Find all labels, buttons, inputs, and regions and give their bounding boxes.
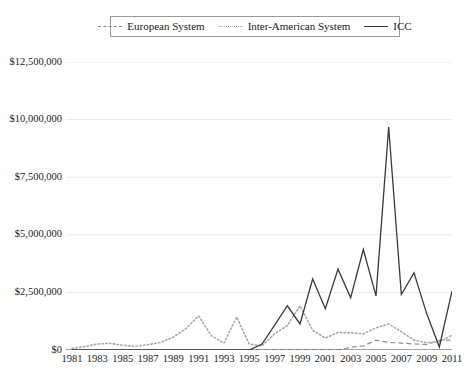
x-tick-label: 1991 bbox=[188, 353, 209, 364]
dashed-line-icon bbox=[98, 26, 122, 27]
legend-item-icc: ICC bbox=[364, 21, 411, 32]
x-axis: 1981198319851987198919911993199519971999… bbox=[0, 353, 466, 369]
x-tick-label: 2011 bbox=[442, 353, 463, 364]
x-tick-label: 1993 bbox=[214, 353, 235, 364]
x-tick-label: 1997 bbox=[264, 353, 285, 364]
x-tick-label: 1995 bbox=[239, 353, 260, 364]
x-tick-label: 2009 bbox=[416, 353, 437, 364]
y-axis: $0$2,500,000$5,000,000$7,500,000$10,000,… bbox=[0, 0, 62, 378]
x-tick-label: 1981 bbox=[62, 353, 83, 364]
x-tick-label: 1985 bbox=[112, 353, 133, 364]
x-tick-label: 1989 bbox=[163, 353, 184, 364]
plot-svg bbox=[66, 62, 452, 350]
plot-area bbox=[66, 62, 452, 350]
series-line-icc bbox=[72, 127, 452, 350]
series-layer bbox=[72, 127, 452, 350]
x-tick-label: 2007 bbox=[391, 353, 412, 364]
x-tick-label: 1983 bbox=[87, 353, 108, 364]
x-tick-label: 1987 bbox=[138, 353, 159, 364]
y-tick-label: $7,500,000 bbox=[15, 172, 62, 183]
solid-line-icon bbox=[364, 26, 388, 27]
y-tick-label: $12,500,000 bbox=[10, 57, 63, 68]
dotted-line-icon bbox=[219, 26, 243, 27]
legend-label-icc: ICC bbox=[393, 21, 411, 32]
y-tick-label: $10,000,000 bbox=[10, 114, 63, 125]
y-tick-label: $5,000,000 bbox=[15, 229, 62, 240]
x-tick-label: 2001 bbox=[315, 353, 336, 364]
gridlines bbox=[66, 62, 452, 292]
legend-label-european-system: European System bbox=[127, 21, 204, 32]
y-tick-label: $2,500,000 bbox=[15, 287, 62, 298]
line-chart: European System Inter-American System IC… bbox=[0, 0, 466, 378]
legend-item-inter-american-system: Inter-American System bbox=[219, 21, 351, 32]
x-tick-label: 2003 bbox=[340, 353, 361, 364]
legend-label-inter-american-system: Inter-American System bbox=[248, 21, 351, 32]
legend-item-european-system: European System bbox=[98, 21, 204, 32]
x-tick-label: 1999 bbox=[290, 353, 311, 364]
x-tick-label: 2005 bbox=[366, 353, 387, 364]
chart-legend: European System Inter-American System IC… bbox=[110, 16, 400, 37]
